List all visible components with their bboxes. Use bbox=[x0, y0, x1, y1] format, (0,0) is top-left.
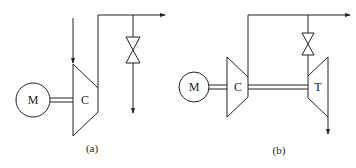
throttle-valve-a bbox=[126, 37, 140, 63]
shaft-compressor-turbine-b bbox=[248, 85, 308, 89]
motor-b: M bbox=[179, 72, 209, 102]
diagram-a: M C (a) bbox=[16, 15, 165, 155]
outlet-pipe-a bbox=[98, 15, 165, 88]
outlet-pipe-b bbox=[248, 15, 350, 77]
diagrams-canvas: M C (a) M C bbox=[0, 0, 356, 168]
motor-b-label: M bbox=[189, 80, 200, 94]
turbine-b-label: T bbox=[314, 80, 322, 94]
motor-a-label: M bbox=[28, 93, 39, 107]
shaft-a bbox=[50, 98, 73, 102]
throttle-valve-b bbox=[302, 33, 314, 55]
caption-b: (b) bbox=[273, 144, 286, 157]
caption-a: (a) bbox=[86, 142, 99, 155]
compressor-a-label: C bbox=[81, 93, 89, 107]
motor-a: M bbox=[16, 83, 50, 117]
shaft-motor-compressor-b bbox=[209, 85, 227, 89]
compressor-b: C bbox=[227, 57, 248, 117]
compressor-a: C bbox=[73, 64, 98, 136]
compressor-b-label: C bbox=[234, 80, 242, 94]
diagram-b: M C T (b) bbox=[179, 15, 350, 157]
turbine-b: T bbox=[308, 57, 328, 117]
